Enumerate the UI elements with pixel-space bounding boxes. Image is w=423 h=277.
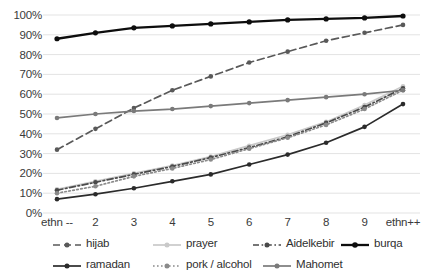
- data-point: [170, 88, 175, 93]
- data-point: [208, 74, 213, 79]
- x-axis-tick-label: 3: [131, 216, 137, 228]
- legend-swatch-icon: [252, 237, 282, 249]
- data-point: [55, 147, 60, 152]
- data-point: [324, 16, 329, 21]
- data-point: [93, 112, 98, 117]
- legend-row: ramadanpork / alcoholMahomet: [0, 255, 423, 273]
- data-point: [170, 107, 175, 112]
- data-point: [362, 125, 367, 130]
- data-point: [285, 17, 290, 22]
- data-point: [324, 95, 329, 100]
- data-point: [55, 197, 60, 202]
- data-point: [247, 19, 252, 24]
- chart-legend: hijabprayerAidelkebirburqaramadanpork / …: [0, 234, 423, 277]
- legend-swatch-icon: [52, 237, 82, 249]
- legend-label: pork / alcohol: [186, 258, 252, 270]
- legend-label: hijab: [86, 237, 109, 249]
- data-point: [93, 127, 98, 132]
- legend-label: Mahomet: [296, 258, 343, 270]
- plot-area: 0%10%20%30%40%50%60%70%80%90%100%: [0, 0, 423, 222]
- data-point: [93, 184, 98, 189]
- legend-item-mahomet[interactable]: Mahomet: [262, 255, 343, 273]
- data-point: [400, 13, 405, 18]
- data-point: [93, 180, 98, 185]
- data-point: [324, 38, 329, 43]
- legend-swatch-icon: [340, 237, 370, 249]
- data-point: [362, 15, 367, 20]
- data-point: [285, 152, 290, 157]
- data-point: [132, 186, 137, 191]
- data-point: [170, 179, 175, 184]
- data-point: [170, 23, 175, 28]
- series-burqa: [54, 13, 405, 41]
- data-point: [324, 123, 329, 128]
- legend-label: Aidelkebir: [286, 237, 335, 249]
- legend-item-aidelkebir[interactable]: Aidelkebir: [252, 234, 335, 252]
- data-point: [362, 31, 367, 36]
- legend-swatch-icon: [262, 258, 292, 270]
- legend-item-hijab[interactable]: hijab: [52, 234, 109, 252]
- x-axis-tick-label: ethn --: [41, 216, 73, 228]
- data-point: [247, 162, 252, 167]
- chart-canvas: [0, 0, 423, 222]
- data-point: [208, 172, 213, 177]
- data-point: [131, 25, 136, 30]
- legend-label: burqa: [374, 237, 402, 249]
- data-point: [247, 146, 252, 151]
- legend-item-prayer[interactable]: prayer: [152, 234, 217, 252]
- legend-item-ramadan[interactable]: ramadan: [52, 255, 130, 273]
- series-line: [57, 25, 403, 150]
- legend-swatch-icon: [152, 237, 182, 249]
- legend-label: prayer: [186, 237, 217, 249]
- legend-item-burqa[interactable]: burqa: [340, 234, 402, 252]
- data-point: [285, 98, 290, 103]
- data-point: [55, 116, 60, 121]
- x-axis-labels: ethn --23456789ethn++: [0, 213, 423, 235]
- data-point: [93, 192, 98, 197]
- data-point: [401, 88, 406, 93]
- x-axis-tick-label: 6: [246, 216, 252, 228]
- series-line: [57, 88, 403, 190]
- series-aidelkebir: [55, 86, 406, 193]
- data-point: [55, 191, 60, 196]
- data-point: [247, 101, 252, 106]
- legend-swatch-icon: [52, 258, 82, 270]
- x-axis-tick-label: ethn++: [386, 216, 421, 228]
- data-point: [401, 23, 406, 28]
- x-axis-tick-label: 8: [323, 216, 329, 228]
- x-axis-tick-label: 2: [92, 216, 98, 228]
- legend-row: hijabprayerAidelkebirburqa: [0, 234, 423, 252]
- legend-label: ramadan: [86, 258, 130, 270]
- line-chart: 0%10%20%30%40%50%60%70%80%90%100% ethn -…: [0, 0, 423, 277]
- data-point: [285, 135, 290, 140]
- data-point: [170, 166, 175, 171]
- legend-swatch-icon: [152, 258, 182, 270]
- data-point: [93, 30, 98, 35]
- data-point: [362, 92, 367, 97]
- data-point: [208, 157, 213, 162]
- data-point: [247, 60, 252, 65]
- series-mahomet: [55, 88, 406, 120]
- series-line: [57, 16, 403, 39]
- legend-item-pork-alcohol[interactable]: pork / alcohol: [152, 255, 252, 273]
- data-point: [324, 140, 329, 145]
- data-point: [132, 109, 137, 114]
- x-axis-tick-label: 7: [285, 216, 291, 228]
- data-point: [208, 104, 213, 109]
- x-axis-tick-label: 9: [361, 216, 367, 228]
- data-point: [132, 174, 137, 179]
- data-point: [208, 21, 213, 26]
- data-point: [54, 36, 59, 41]
- data-point: [285, 49, 290, 54]
- x-axis-tick-label: 5: [208, 216, 214, 228]
- data-point: [362, 107, 367, 112]
- x-axis-tick-label: 4: [169, 216, 175, 228]
- series-prayer: [55, 84, 406, 192]
- data-point: [401, 102, 406, 107]
